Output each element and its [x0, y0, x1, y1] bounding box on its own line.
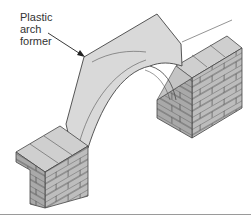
arch-former-illustration: Plastic arch former — [0, 0, 251, 217]
annotation-label: Plastic arch former — [20, 11, 52, 47]
annotation-line-2: arch — [20, 23, 52, 35]
plastic-arch-former — [66, 14, 182, 150]
annotation-line-3: former — [20, 35, 52, 47]
left-brick-pier — [16, 126, 88, 208]
annotation-line-1: Plastic — [20, 11, 52, 23]
bottom-divider — [0, 214, 251, 215]
leader-arrow — [48, 33, 85, 57]
